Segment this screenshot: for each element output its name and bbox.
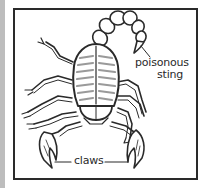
left-claw [40,132,57,168]
left-claw-arm [52,122,82,136]
right-legs [116,80,146,143]
left-legs [22,38,78,129]
label-sting: sting [157,69,183,80]
scorpion-body [73,44,119,124]
label-claws: claws [74,155,104,166]
label-poisonous: poisonous [135,57,189,68]
